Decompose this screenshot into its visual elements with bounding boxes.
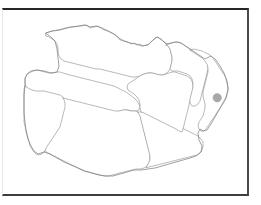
- map-canvas[interactable]: [0, 0, 261, 205]
- region-northwest[interactable]: [46, 25, 172, 77]
- location-marker-dot[interactable]: [213, 94, 221, 102]
- map-regions: [24, 25, 228, 176]
- map-figure: [0, 0, 261, 205]
